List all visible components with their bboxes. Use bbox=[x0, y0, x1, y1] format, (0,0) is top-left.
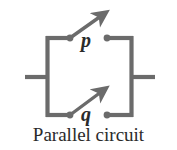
parallel-circuit-figure: p q Parallel circuit bbox=[0, 0, 177, 150]
switch-p-label: p bbox=[81, 30, 91, 50]
switch-q-contact-dot bbox=[104, 112, 111, 119]
switch-q-label: q bbox=[81, 104, 91, 124]
figure-caption: Parallel circuit bbox=[0, 123, 177, 146]
switch-q-pivot-dot bbox=[67, 112, 74, 119]
switch-p-pivot-dot bbox=[67, 35, 74, 42]
switch-p-contact-dot bbox=[104, 35, 111, 42]
